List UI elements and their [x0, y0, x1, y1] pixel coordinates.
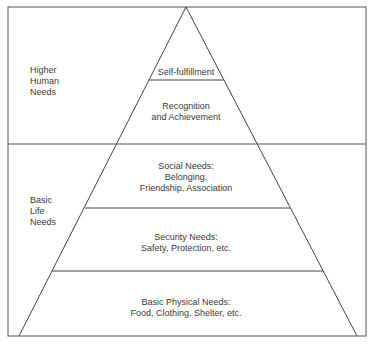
side-label-line: Higher [30, 65, 59, 76]
level-text: Recognition [151, 101, 220, 112]
side-label-line: Needs [30, 217, 56, 228]
level-text: Friendship, Association [140, 183, 233, 194]
level-text: Safety, Protection, etc. [141, 243, 231, 254]
level-basic-physical-needs: Basic Physical Needs: Food, Clothing, Sh… [130, 297, 241, 319]
level-social-needs: Social Needs: Belonging, Friendship, Ass… [140, 161, 233, 194]
level-text: Basic Physical Needs: [130, 297, 241, 308]
level-self-fulfillment: Self-fulfillment [158, 67, 215, 78]
level-text: Belonging, [140, 172, 233, 183]
level-text: Security Needs: [141, 232, 231, 243]
side-label-basic-life-needs: Basic Life Needs [30, 195, 56, 228]
side-label-line: Life [30, 206, 56, 217]
side-label-line: Basic [30, 195, 56, 206]
side-label-line: Human [30, 76, 59, 87]
level-text: and Achievement [151, 112, 220, 123]
side-label-line: Needs [30, 87, 59, 98]
side-label-higher-human-needs: Higher Human Needs [30, 65, 59, 98]
level-security-needs: Security Needs: Safety, Protection, etc. [141, 232, 231, 254]
level-recognition: Recognition and Achievement [151, 101, 220, 123]
level-text: Self-fulfillment [158, 67, 215, 78]
level-text: Social Needs: [140, 161, 233, 172]
level-text: Food, Clothing, Shelter, etc. [130, 308, 241, 319]
